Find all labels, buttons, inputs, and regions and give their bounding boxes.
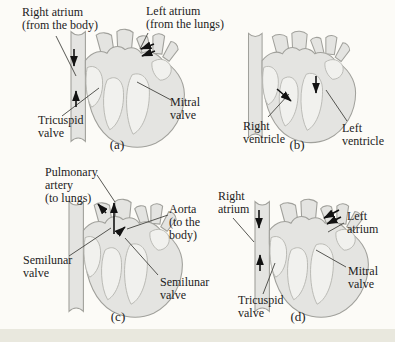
caption-c: (c) [106,309,130,325]
label-semilunar-valve-left-c: Semilunar valve [23,254,72,280]
leader-line [97,175,115,202]
label-mitral-valve-a: Mitral valve [170,96,200,122]
leader-line [233,218,254,242]
label-aorta-c: Aorta (to the body) [169,203,200,242]
label-pulmonary-artery-c: Pulmonary artery (to lungs) [45,166,98,205]
label-left-ventricle-b: Left ventricle [342,122,384,148]
caption-b: (b) [285,137,309,153]
label-right-atrium-d: Right atrium [218,190,249,216]
heart-illustration-a [71,29,184,147]
label-right-atrium-a: Right atrium (from the body) [22,6,98,32]
caption-d: (d) [286,309,310,325]
label-mitral-valve-d: Mitral valve [348,265,378,291]
caption-a: (a) [105,137,129,153]
label-tricuspid-valve-d: Tricuspid valve [238,294,284,320]
label-left-atrium-d: Left atrium [347,210,378,236]
figure-canvas: Right atrium (from the body) Left atrium… [0,0,395,342]
label-left-atrium-a: Left atrium (from the lungs) [146,5,224,31]
label-right-ventricle-b: Right ventricle [243,120,285,146]
label-semilunar-valve-right-c: Semilunar valve [160,276,209,302]
page-edge-strip [0,329,395,342]
label-tricuspid-valve-a: Tricuspid valve [38,114,84,140]
